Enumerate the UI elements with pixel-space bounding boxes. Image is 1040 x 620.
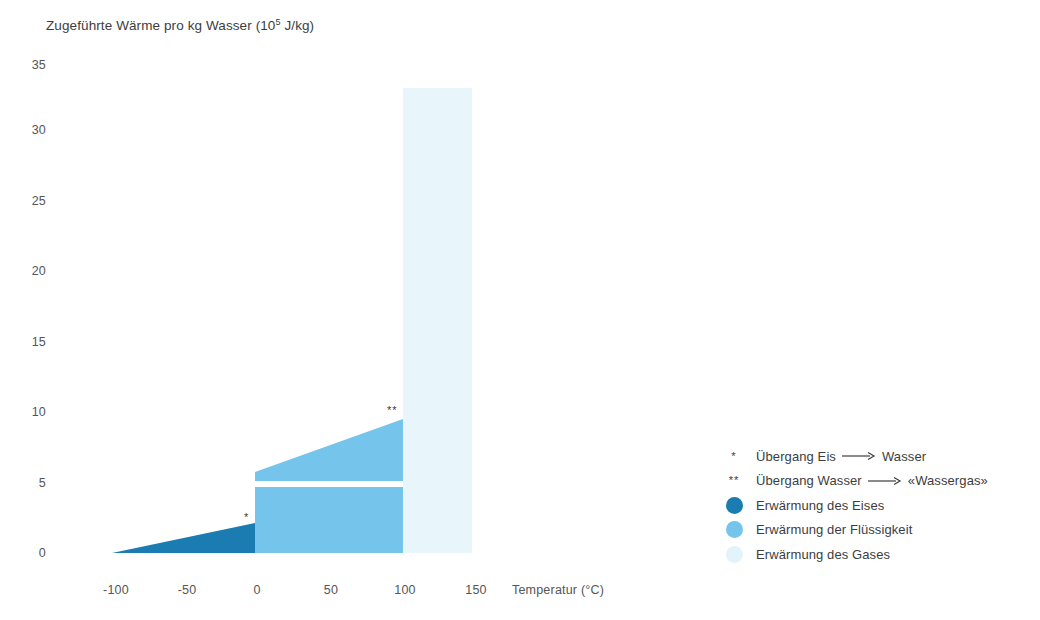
legend-label-transition-water-gas: Übergang Wasser «Wassergas» <box>756 473 988 488</box>
legend-item-heating-gas: Erwärmung des Gases <box>712 542 1022 567</box>
arrow-right-icon <box>868 476 902 486</box>
legend-text-pre-1: Übergang Wasser <box>756 473 862 488</box>
x-axis-tick-minus50: -50 <box>157 583 217 597</box>
annotation-marker-vaporisation: ** <box>387 405 398 416</box>
annotation-marker-fusion: * <box>244 512 249 523</box>
x-axis-tick-100: 100 <box>375 583 435 597</box>
circle-swatch-icon <box>726 521 743 538</box>
legend-label-heating-liquid: Erwärmung der Flüssigkeit <box>756 522 912 537</box>
x-axis-tick-150: 150 <box>446 583 506 597</box>
legend-item-transition-ice-water: * Übergang Eis Wasser <box>712 444 1022 469</box>
circle-swatch-icon <box>726 497 743 514</box>
legend-swatch-gas-wrapper <box>712 546 756 563</box>
series-liquid-upper-band <box>255 419 403 481</box>
legend-text-pre-0: Übergang Eis <box>756 449 836 464</box>
chart-figure: Zugeführte Wärme pro kg Wasser (105 J/kg… <box>0 0 1040 620</box>
x-axis-tick-50: 50 <box>301 583 361 597</box>
legend-text-post-1: «Wassergas» <box>908 473 988 488</box>
x-axis-tick-0: 0 <box>227 583 287 597</box>
legend-key-double-star: ** <box>712 475 756 486</box>
legend-swatch-liquid-wrapper <box>712 521 756 538</box>
legend-swatch-ice-wrapper <box>712 497 756 514</box>
legend-label-transition-ice-water: Übergang Eis Wasser <box>756 449 926 464</box>
circle-swatch-icon <box>726 546 743 563</box>
series-gas-area <box>403 88 472 553</box>
chart-legend: * Übergang Eis Wasser ** Übergang Wasser… <box>712 444 1022 567</box>
arrow-right-icon <box>842 451 876 461</box>
legend-label-heating-ice: Erwärmung des Eises <box>756 498 884 513</box>
legend-text-post-0: Wasser <box>882 449 926 464</box>
legend-item-heating-liquid: Erwärmung der Flüssigkeit <box>712 518 1022 543</box>
legend-item-transition-water-gas: ** Übergang Wasser «Wassergas» <box>712 469 1022 494</box>
legend-key-single-star: * <box>712 451 756 462</box>
x-axis-tick-minus100: -100 <box>86 583 146 597</box>
series-liquid-lower-band <box>255 487 403 553</box>
legend-item-heating-ice: Erwärmung des Eises <box>712 493 1022 518</box>
x-axis-label: Temperatur (°C) <box>512 583 604 597</box>
series-ice-area <box>112 523 255 553</box>
legend-label-heating-gas: Erwärmung des Gases <box>756 547 890 562</box>
